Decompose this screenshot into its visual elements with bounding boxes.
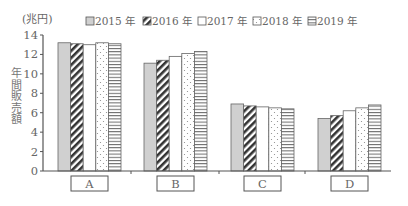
legend-swatch-icon bbox=[198, 17, 206, 25]
category-text: C bbox=[258, 177, 267, 191]
legend-swatch-icon bbox=[86, 17, 94, 25]
legend-item: 2016 年 bbox=[143, 15, 192, 27]
bar-group-C bbox=[231, 104, 294, 171]
bar bbox=[356, 108, 369, 171]
bar bbox=[256, 107, 269, 171]
legend-item: 2015 年 bbox=[86, 15, 135, 27]
bar bbox=[96, 43, 109, 171]
legend-item: 2018 年 bbox=[253, 15, 302, 27]
unit-label: (兆円) bbox=[22, 13, 53, 26]
bar bbox=[71, 44, 84, 171]
y-tick-label: 8 bbox=[31, 86, 38, 100]
y-tick-label: 6 bbox=[31, 106, 38, 120]
bar bbox=[194, 52, 207, 171]
category-text: D bbox=[345, 177, 354, 191]
bar-group-A bbox=[58, 43, 121, 171]
legend-label: 2017 年 bbox=[207, 15, 247, 27]
bar bbox=[231, 104, 244, 171]
bar bbox=[368, 105, 381, 171]
legend-swatch-icon bbox=[253, 17, 261, 25]
bar bbox=[144, 63, 157, 171]
y-tick-label: 0 bbox=[31, 164, 38, 178]
y-tick-label: 4 bbox=[31, 125, 38, 139]
bar-group-D bbox=[318, 105, 381, 171]
bar bbox=[83, 45, 96, 171]
category-label-B: B bbox=[157, 176, 194, 191]
bar bbox=[269, 108, 282, 171]
legend-label: 2019 年 bbox=[317, 15, 357, 27]
bar bbox=[331, 116, 344, 171]
bar bbox=[343, 111, 356, 171]
bar bbox=[169, 56, 182, 171]
bars bbox=[58, 43, 381, 171]
bar bbox=[281, 109, 294, 171]
legend-swatch-icon bbox=[143, 17, 151, 25]
legend-swatch-icon bbox=[308, 17, 316, 25]
y-axis: 02468101214 bbox=[23, 28, 43, 178]
category-label-D: D bbox=[331, 176, 368, 191]
bar bbox=[108, 44, 121, 171]
legend-item: 2019 年 bbox=[308, 15, 357, 27]
bar bbox=[58, 43, 71, 171]
category-label-C: C bbox=[244, 176, 281, 191]
category-text: B bbox=[171, 177, 179, 191]
y-tick-label: 2 bbox=[31, 145, 38, 159]
y-axis-label: 年間販売額 bbox=[9, 68, 23, 126]
bar-chart: (兆円) 2015 年2016 年2017 年2018 年2019 年 0246… bbox=[0, 0, 408, 206]
legend-item: 2017 年 bbox=[198, 15, 247, 27]
x-axis: ABCD bbox=[43, 171, 391, 191]
category-label-A: A bbox=[71, 176, 108, 191]
bar bbox=[182, 53, 195, 171]
legend-label: 2015 年 bbox=[95, 15, 135, 27]
bar bbox=[318, 119, 331, 171]
category-text: A bbox=[84, 177, 94, 191]
legend: 2015 年2016 年2017 年2018 年2019 年 bbox=[86, 15, 357, 27]
y-tick-label: 14 bbox=[23, 28, 38, 42]
unit-text: (兆円) bbox=[22, 13, 53, 26]
bar bbox=[157, 60, 170, 171]
bar bbox=[244, 106, 257, 171]
bar-group-B bbox=[144, 52, 207, 171]
y-tick-label: 10 bbox=[23, 67, 38, 81]
legend-label: 2018 年 bbox=[262, 15, 302, 27]
y-tick-label: 12 bbox=[23, 47, 38, 61]
legend-label: 2016 年 bbox=[152, 15, 192, 27]
